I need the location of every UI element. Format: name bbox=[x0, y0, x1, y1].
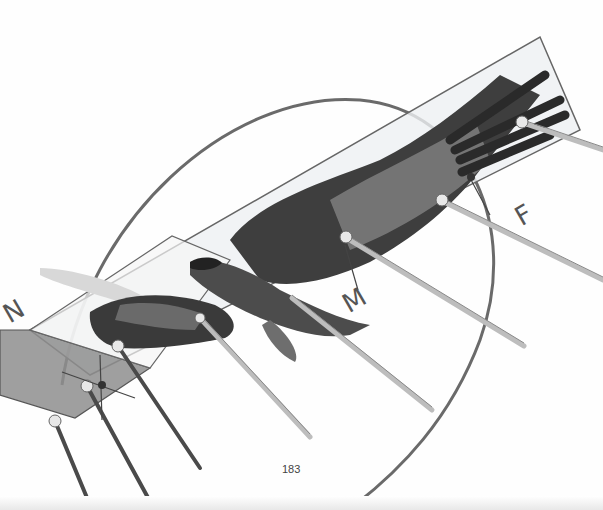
bird-force-diagram bbox=[0, 0, 603, 510]
page-bottom-edge bbox=[0, 496, 603, 510]
page-number: 183 bbox=[282, 463, 300, 475]
book-page: N M F 183 bbox=[0, 0, 603, 510]
